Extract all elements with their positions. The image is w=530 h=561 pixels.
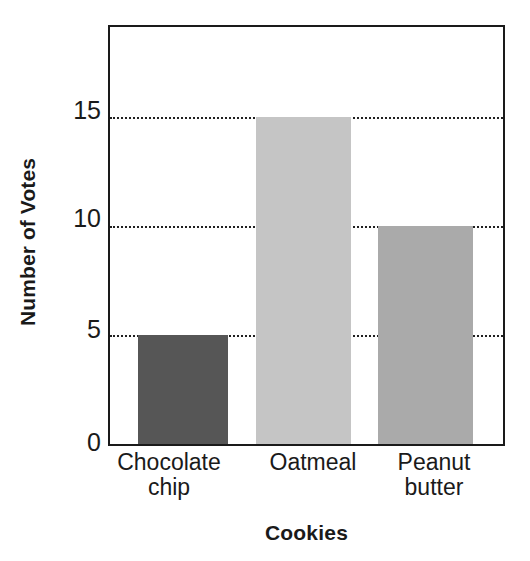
y-tick-label-5: 5 [63, 317, 101, 342]
bar-chocolate-chip[interactable] [138, 335, 228, 444]
bar-peanut-butter[interactable] [378, 226, 473, 444]
bar-chart: Number of Votes 15 10 5 0 Chocolate chip… [0, 0, 530, 561]
x-tick-label-peanut-butter: Peanut butter [364, 450, 504, 499]
y-tick-label-10: 10 [63, 206, 101, 231]
y-axis-title: Number of Votes [16, 157, 40, 327]
y-tick-label-15: 15 [63, 98, 101, 123]
plot-area [108, 25, 505, 446]
x-axis-title: Cookies [108, 521, 505, 545]
x-axis-tick-labels: Chocolate chip Oatmeal Peanut butter [108, 450, 505, 512]
bar-oatmeal[interactable] [256, 117, 351, 444]
x-tick-label-oatmeal: Oatmeal [243, 450, 383, 475]
y-axis-tick-labels: 15 10 5 0 [55, 0, 101, 561]
y-tick-label-0: 0 [63, 430, 101, 455]
x-tick-label-chocolate-chip: Chocolate chip [99, 450, 239, 499]
